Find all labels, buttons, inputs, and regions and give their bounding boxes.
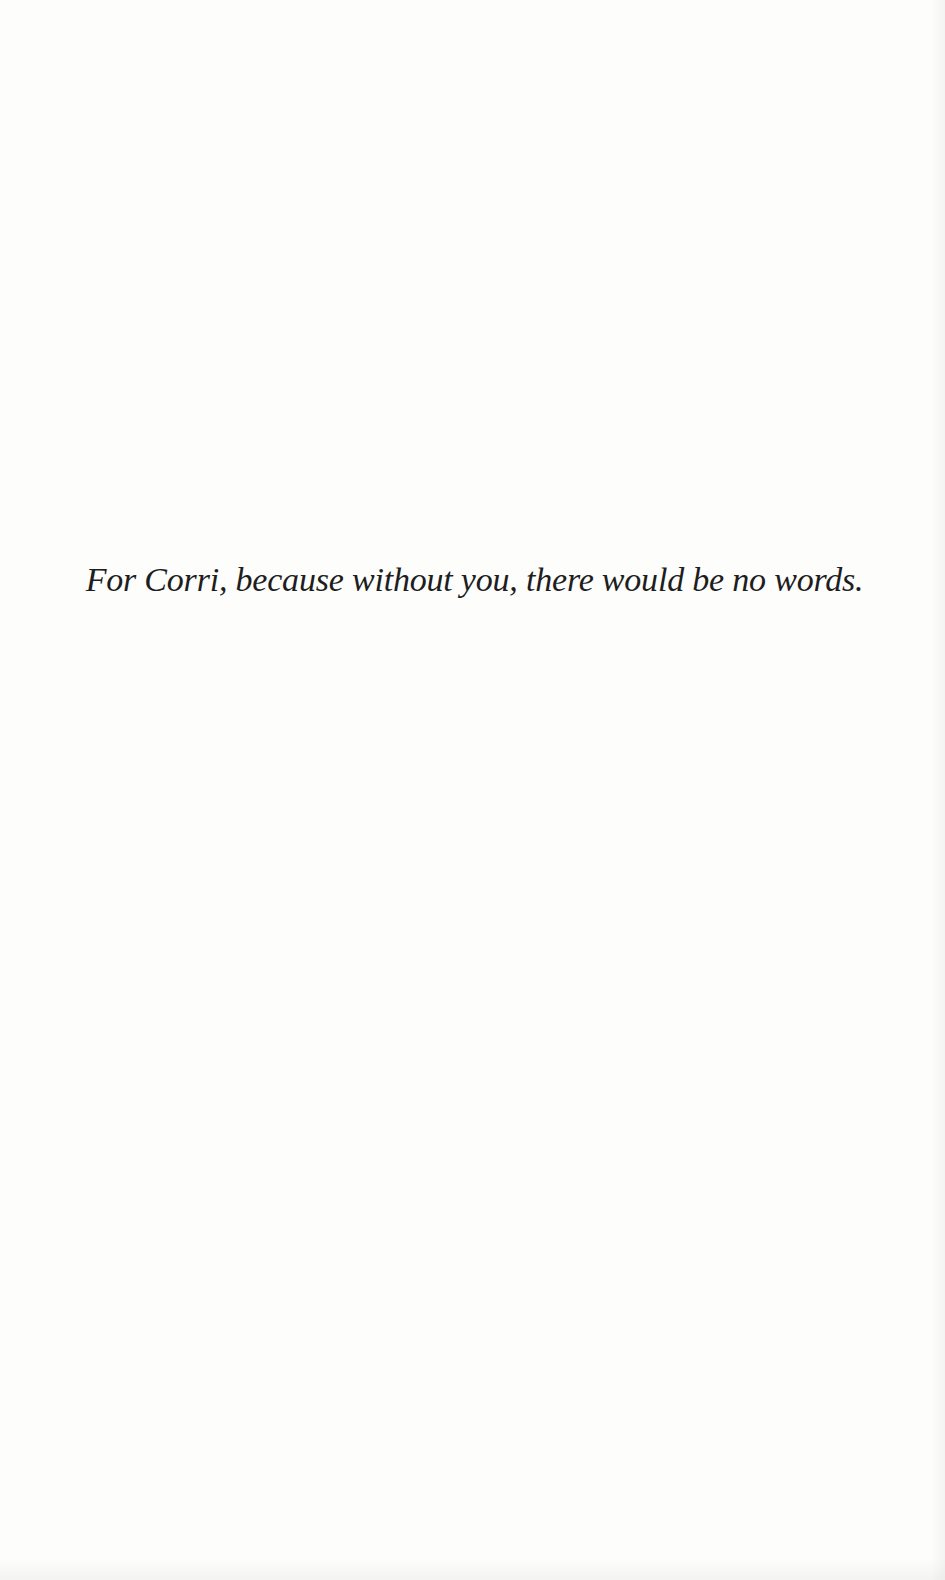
dedication-text: For Corri, because without you, there wo… bbox=[0, 558, 945, 602]
book-page: For Corri, because without you, there wo… bbox=[0, 0, 945, 1580]
